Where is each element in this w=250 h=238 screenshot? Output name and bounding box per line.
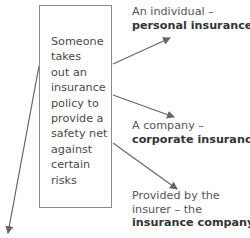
box-line: takes [51, 49, 113, 64]
box-line: provide a [51, 111, 113, 126]
label-corporate-insurance: A company – corporate insurance [132, 119, 250, 146]
box-line: risks [51, 173, 113, 188]
label-prefix: A company – [132, 119, 250, 133]
box-line: policy to [51, 96, 113, 111]
label-prefix: An individual – [132, 5, 250, 19]
central-box-text: Someone takes out an insurance policy to… [51, 34, 113, 188]
box-line: safety net [51, 126, 113, 141]
arrow-down-left [8, 66, 39, 233]
arrow-to-insurance-company [113, 143, 177, 189]
box-line: against [51, 142, 113, 157]
box-line: certain [51, 157, 113, 172]
arrow-to-personal-insurance [113, 38, 170, 64]
label-insurance-company: Provided by the insurer – the insurance … [132, 189, 250, 230]
box-line: out an [51, 65, 113, 80]
arrow-to-corporate-insurance [113, 95, 174, 117]
box-line: insurance [51, 80, 113, 95]
box-line: Someone [51, 34, 113, 49]
label-term: personal insurance [132, 19, 250, 32]
label-prefix-line2: insurer – the [132, 203, 250, 217]
label-term: corporate insurance [132, 133, 250, 146]
label-prefix-line1: Provided by the [132, 189, 250, 203]
label-term: insurance company [132, 216, 250, 229]
label-personal-insurance: An individual – personal insurance [132, 5, 250, 32]
